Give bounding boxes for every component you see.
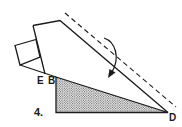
curved-fold-arrow-icon bbox=[104, 38, 116, 78]
shaded-triangle bbox=[56, 77, 168, 113]
origami-diagram: E B D 4. bbox=[0, 0, 182, 127]
step-number: 4. bbox=[34, 106, 43, 118]
small-flap bbox=[15, 40, 40, 66]
label-e: E bbox=[37, 75, 44, 86]
label-b: B bbox=[48, 75, 55, 86]
label-d: D bbox=[169, 112, 176, 123]
